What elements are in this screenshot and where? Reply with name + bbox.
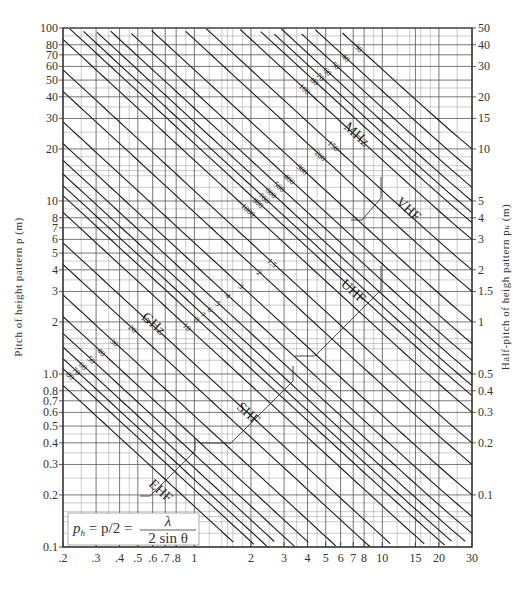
y-tick-right-label: 1	[478, 315, 484, 329]
y-axis-right-ticks: 50403020151054321.510.50.40.30.20.1	[472, 21, 493, 502]
frequency-line	[63, 295, 336, 546]
x-tick-label: 3	[281, 551, 287, 565]
frequency-line	[63, 70, 472, 443]
grid-major	[63, 28, 472, 547]
y-tick-left-label: 20	[46, 142, 58, 156]
frequency-line	[152, 31, 472, 322]
formula-numerator: λ	[164, 513, 172, 529]
band-label-ehf: EHF	[146, 476, 176, 505]
y-tick-left-label: 10	[46, 194, 58, 208]
x-tick-label: 4	[305, 551, 311, 565]
y-axis-right-title: Half-pitch of heigh pattern pₕ (m)	[499, 204, 512, 370]
y-tick-left-label: 2	[52, 315, 58, 329]
y-tick-left-label: 0.4	[43, 436, 58, 450]
x-axis-ticks: .2.3.4.5.6.7.81234567810152030	[59, 542, 479, 565]
y-tick-right-label: 20	[478, 90, 490, 104]
y-tick-right-label: 40	[478, 38, 490, 52]
y-tick-right-label: 4	[478, 211, 484, 225]
x-tick-label: 8	[361, 551, 367, 565]
x-tick-label: 6	[338, 551, 344, 565]
grid-minor	[63, 28, 472, 547]
unit-label-ghz: GHz	[139, 309, 169, 338]
y-tick-right-label: 2	[478, 263, 484, 277]
frequency-line	[315, 30, 472, 171]
y-tick-left-label: 40	[46, 90, 58, 104]
y-tick-right-label: 15	[478, 111, 490, 125]
y-tick-right-label: 0.2	[478, 436, 493, 450]
frequency-labels: 3040506070801001502003004005006007008001…	[64, 42, 364, 381]
y-tick-right-label: 10	[478, 142, 490, 156]
y-tick-right-label: 3	[478, 232, 484, 246]
y-tick-left-label: 1.0	[43, 367, 58, 381]
plot-frame	[63, 28, 472, 547]
x-tick-label: .4	[115, 551, 124, 565]
x-tick-label: 10	[376, 551, 388, 565]
y-axis-left-ticks: 100807060504030201087654321.00.80.70.60.…	[40, 21, 63, 554]
x-tick-label: 15	[409, 551, 421, 565]
y-tick-left-label: 60	[46, 59, 58, 73]
y-tick-right-label: 50	[478, 21, 490, 35]
frequency-line	[63, 122, 472, 495]
y-tick-left-label: 30	[46, 111, 58, 125]
x-tick-label: 30	[466, 551, 478, 565]
y-tick-right-label: 0.5	[478, 367, 493, 381]
x-tick-label: .2	[59, 551, 68, 565]
y-tick-right-label: 0.3	[478, 405, 493, 419]
y-tick-right-label: 1.5	[478, 284, 493, 298]
y-tick-right-label: 30	[478, 59, 490, 73]
frequency-line	[261, 32, 472, 223]
frequency-line	[63, 174, 465, 541]
y-tick-left-label: 5	[52, 246, 58, 260]
y-tick-left-label: 4	[52, 263, 58, 277]
y-axis-left-title: Pitch of height pattern p (m)	[12, 217, 25, 356]
y-tick-left-label: 0.6	[43, 405, 58, 419]
x-tick-label: 1	[191, 551, 197, 565]
y-tick-left-label: 50	[46, 73, 58, 87]
y-tick-left-label: 100	[40, 21, 58, 35]
y-tick-left-label: 3	[52, 284, 58, 298]
formula-denominator: 2 sin θ	[148, 530, 188, 546]
frequency-line	[63, 212, 424, 544]
formula-box: ph = p/2 = λ 2 sin θ	[68, 513, 199, 546]
frequency-lines	[63, 29, 472, 547]
x-tick-label: 20	[433, 551, 445, 565]
x-tick-label: .5	[133, 551, 142, 565]
x-tick-label: 2	[248, 551, 254, 565]
y-tick-left-label: 0.3	[43, 457, 58, 471]
x-tick-label: .7	[161, 551, 170, 565]
x-tick-label: 7	[350, 551, 356, 565]
y-tick-right-label: 0.1	[478, 488, 493, 502]
band-label-vhf: VHF	[393, 194, 424, 224]
band-bracket	[351, 177, 381, 220]
nomograph-chart: 3040506070801001502003004005006007008001…	[0, 0, 527, 605]
x-tick-label: 5	[323, 551, 329, 565]
x-tick-label: .6	[148, 551, 157, 565]
y-tick-left-label: 0.5	[43, 419, 58, 433]
x-tick-label: .3	[92, 551, 101, 565]
y-tick-right-label: 0.4	[478, 384, 493, 398]
y-tick-left-label: 0.2	[43, 488, 58, 502]
y-tick-left-label: 0.1	[43, 540, 58, 554]
y-tick-left-label: 6	[52, 232, 58, 246]
y-tick-right-label: 5	[478, 194, 484, 208]
x-tick-label: .8	[172, 551, 181, 565]
unit-label-mhz: MHz	[341, 119, 372, 149]
frequency-line	[63, 186, 452, 541]
